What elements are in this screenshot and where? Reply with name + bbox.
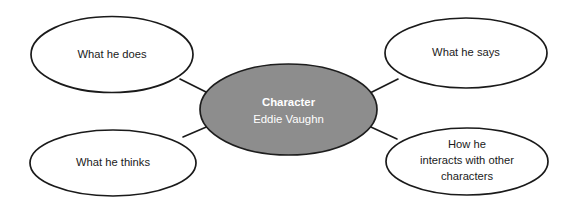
node-bottom-left-label: What he thinks bbox=[76, 156, 150, 168]
diagram-canvas: What he does What he says What he thinks… bbox=[0, 0, 576, 210]
node-top-left-label: What he does bbox=[77, 48, 146, 60]
node-bottom-right[interactable]: How he interacts with other characters bbox=[386, 128, 548, 195]
node-bottom-right-label-line2: interacts with other bbox=[420, 154, 514, 166]
node-bottom-right-label-line3: characters bbox=[441, 170, 494, 182]
node-center[interactable]: Character Eddie Vaughn bbox=[200, 64, 377, 155]
node-center-subtitle: Eddie Vaughn bbox=[253, 113, 324, 125]
node-top-right[interactable]: What he says bbox=[385, 18, 547, 88]
character-mind-map-diagram: What he does What he says What he thinks… bbox=[0, 0, 576, 210]
node-bottom-left[interactable]: What he thinks bbox=[30, 130, 196, 196]
node-top-left[interactable]: What he does bbox=[31, 17, 193, 93]
node-center-shape bbox=[200, 64, 377, 155]
node-center-title: Character bbox=[262, 96, 316, 108]
node-bottom-right-label-line1: How he bbox=[448, 138, 486, 150]
node-top-right-label: What he says bbox=[432, 46, 500, 58]
